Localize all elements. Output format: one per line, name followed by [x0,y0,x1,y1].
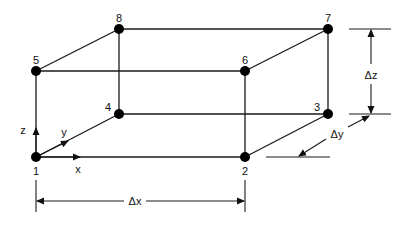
edge-6-7 [245,29,328,71]
dy-arrow-down-icon [299,139,326,156]
dz-dimension: Δz [349,29,391,114]
node-label-6: 6 [242,54,248,66]
box-element-diagram: z y x Δx Δz Δy 1 2 3 [0,0,411,225]
node-label-4: 4 [105,101,111,113]
node-labels: 1 2 3 4 5 6 7 8 [33,12,331,177]
y-axis-label: y [61,126,67,138]
node-label-7: 7 [325,12,331,24]
node-label-3: 3 [314,101,320,113]
node-label-2: 2 [242,165,248,177]
node-1 [31,152,41,162]
nodes [31,24,333,162]
node-2 [240,152,250,162]
x-axis-label: x [75,163,81,175]
node-label-5: 5 [33,54,39,66]
dy-arrow-up-icon [348,116,369,127]
dy-label: Δy [331,128,344,140]
node-8 [114,24,124,34]
edge-8-5 [36,29,119,71]
local-axes: z y x [20,124,81,175]
node-4 [114,109,124,119]
node-6 [240,66,250,76]
z-axis-label: z [20,124,26,136]
node-label-8: 8 [116,12,122,24]
dx-dimension: Δx [36,180,245,212]
y-axis-arrow-icon [36,141,68,157]
box-edges [36,29,328,157]
node-7 [323,24,333,34]
dz-label: Δz [365,69,378,81]
node-label-1: 1 [33,165,39,177]
node-3 [323,109,333,119]
node-5 [31,66,41,76]
edge-2-3 [245,114,328,157]
dy-dimension: Δy [266,116,369,157]
dx-label: Δx [129,195,142,207]
